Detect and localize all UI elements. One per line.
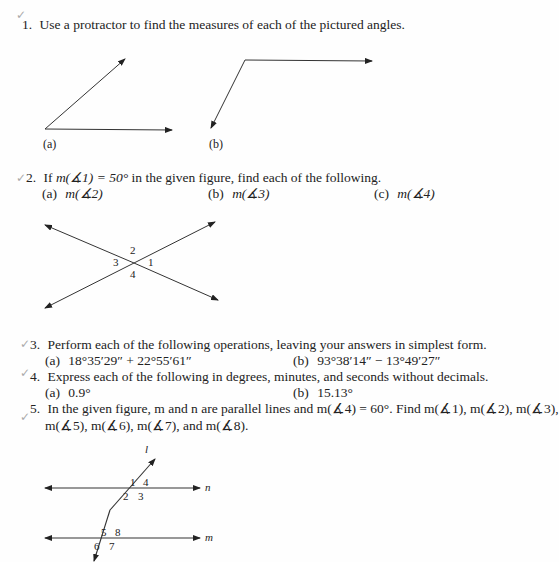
part-2b: (b) m(∡3) xyxy=(208,186,270,202)
part-2c: (c) m(∡4) xyxy=(374,186,435,202)
angle-label-3: 3 xyxy=(113,256,119,268)
parallel-lines-figure xyxy=(45,459,200,561)
angle-label-5: 5 xyxy=(101,526,107,538)
angle-label-1: 1 xyxy=(130,476,136,488)
part-expr: 18°35′29″ + 22°55′61″ xyxy=(68,353,191,368)
angle-label-2: 2 xyxy=(130,244,136,256)
figure-label-a: (a) xyxy=(43,137,56,152)
angle-label-8: 8 xyxy=(115,526,121,538)
part-expr: m(∡2) xyxy=(65,186,103,201)
problem-2: 2. If m(∡1) = 50° in the given figure, f… xyxy=(26,170,381,186)
part-4b: (b) 15.13° xyxy=(293,385,353,401)
problem-number: 4. xyxy=(30,369,40,384)
problem-text-prefix: If xyxy=(44,170,56,185)
part-label: (a) xyxy=(45,385,60,400)
angle-label-2: 2 xyxy=(123,490,129,502)
problem-text-suffix: in the given figure, find each of the fo… xyxy=(128,170,381,185)
problem-number: 3. xyxy=(30,337,40,352)
problem-5-line-2: m(∡5), m(∡6), m(∡7), and m(∡8). xyxy=(45,418,248,434)
problem-5-line-1: 5. In the given figure, m and n are para… xyxy=(30,401,559,417)
part-3a: (a) 18°35′29″ + 22°55′61″ xyxy=(45,353,192,369)
problem-text: Perform each of the following operations… xyxy=(48,337,487,352)
line-label-l: l xyxy=(145,443,148,455)
angle-label-7: 7 xyxy=(109,540,115,552)
check-mark: ✓ xyxy=(20,410,30,424)
angle-label-4: 4 xyxy=(143,476,149,488)
part-expr: 15.13° xyxy=(317,385,353,400)
problem-text: m(∡5), m(∡6), m(∡7), and m(∡8). xyxy=(45,418,248,433)
intersecting-lines-figure xyxy=(45,222,218,308)
part-3b: (b) 93°38′14″ − 13°49′27″ xyxy=(293,353,440,369)
part-expr: 93°38′14″ − 13°49′27″ xyxy=(317,353,440,368)
problem-text: In the given figure, m and n are paralle… xyxy=(48,401,559,416)
part-label: (b) xyxy=(293,353,309,368)
line-label-n: n xyxy=(205,481,211,493)
figure-label-b: (b) xyxy=(209,137,223,152)
part-expr: m(∡3) xyxy=(232,186,270,201)
part-4a: (a) 0.9° xyxy=(45,385,91,401)
part-label: (a) xyxy=(45,353,60,368)
angle-figure-a xyxy=(45,59,172,130)
angle-label-1: 1 xyxy=(148,256,154,268)
problem-4: 4. Express each of the following in degr… xyxy=(30,369,488,385)
angle-figure-b xyxy=(211,60,372,128)
line-label-m: m xyxy=(205,531,213,543)
problem-3: 3. Perform each of the following operati… xyxy=(30,337,487,353)
part-expr: m(∡4) xyxy=(397,186,435,201)
part-label: (c) xyxy=(374,186,389,201)
problem-math: m(∡1) = 50° xyxy=(56,170,128,185)
angle-label-3: 3 xyxy=(138,490,144,502)
part-label: (b) xyxy=(293,385,309,400)
angle-label-6: 6 xyxy=(94,540,100,552)
angle-label-4: 4 xyxy=(130,268,136,280)
check-mark: ✓ xyxy=(20,337,30,351)
check-mark: ✓ xyxy=(16,171,26,185)
check-mark: ✓ xyxy=(20,366,30,380)
part-label: (b) xyxy=(208,186,224,201)
part-label: (a) xyxy=(42,186,57,201)
problem-text: Express each of the following in degrees… xyxy=(48,369,489,384)
problem-number: 5. xyxy=(30,401,40,416)
part-2a: (a) m(∡2) xyxy=(42,186,103,202)
part-expr: 0.9° xyxy=(68,385,90,400)
problem-number: 2. xyxy=(26,170,36,185)
